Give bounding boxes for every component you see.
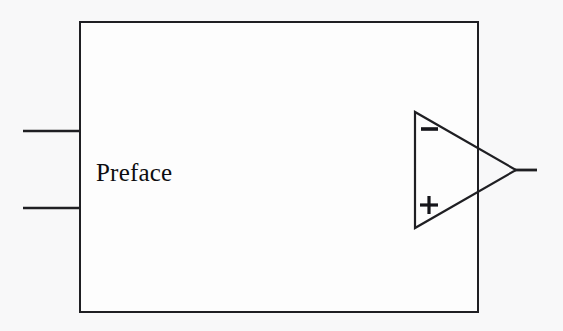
preface-block-rect[interactable] [80,22,478,312]
diagram-canvas: Preface [0,0,563,331]
preface-block-diagram [0,0,563,331]
